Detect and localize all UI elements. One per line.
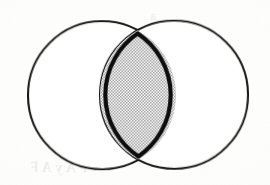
venn-diagram-svg bbox=[0, 0, 270, 185]
venn-diagram-figure: a on lies a es for lo ind p F A y A F bbox=[0, 0, 270, 185]
scan-skew-wrapper bbox=[0, 0, 270, 185]
